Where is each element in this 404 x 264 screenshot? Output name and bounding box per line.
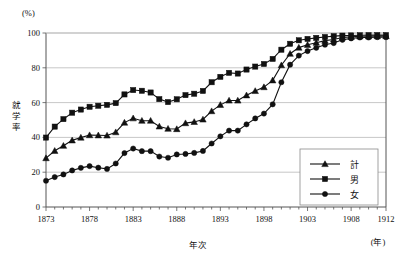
- y-tick-label-0: 0: [36, 202, 40, 212]
- data-point-計-1897: [252, 88, 259, 94]
- data-point-男-1905: [322, 34, 327, 39]
- data-point-男-1883: [131, 87, 136, 92]
- data-point-女-1909: [357, 35, 362, 40]
- data-point-女-1899: [270, 102, 275, 107]
- data-point-男-1878: [87, 104, 92, 109]
- x-tick-label-1878: 1878: [81, 214, 98, 224]
- legend: 計男女: [300, 149, 378, 205]
- y-tick-labels: 020406080100: [27, 28, 40, 212]
- x-tick-label-1888: 1888: [168, 214, 185, 224]
- data-point-女-1875: [61, 172, 66, 177]
- data-point-女-1895: [235, 128, 240, 133]
- y-tick-label-60: 60: [32, 98, 41, 108]
- data-point-男-1895: [235, 71, 240, 76]
- data-point-女-1884: [139, 149, 144, 154]
- data-point-女-1873: [43, 178, 48, 183]
- x-tick-label-1893: 1893: [212, 214, 229, 224]
- data-point-男-1881: [113, 101, 118, 106]
- data-point-男-1876: [70, 110, 75, 115]
- data-point-女-1907: [340, 37, 345, 42]
- data-point-男-1898: [261, 61, 266, 66]
- data-point-女-1904: [314, 45, 319, 50]
- data-point-男-1890: [192, 91, 197, 96]
- legend-box: [300, 149, 378, 205]
- y-tick-label-100: 100: [27, 28, 40, 38]
- data-point-女-1883: [131, 146, 136, 151]
- series-line-男: [46, 35, 386, 137]
- data-point-女-1876: [70, 168, 75, 173]
- data-point-女-1886: [157, 154, 162, 159]
- data-point-女-1906: [331, 40, 336, 45]
- data-point-計-1886: [156, 123, 163, 129]
- series-男: [43, 32, 388, 140]
- data-point-女-1891: [200, 148, 205, 153]
- data-point-女-1892: [209, 141, 214, 146]
- data-point-女-1897: [253, 116, 258, 121]
- data-point-女-1901: [288, 62, 293, 67]
- data-point-計-1874: [51, 148, 58, 154]
- data-point-女-1877: [78, 165, 83, 170]
- data-point-女-1881: [113, 161, 118, 166]
- x-axis-unit-label: (年): [371, 237, 386, 247]
- data-point-女-1894: [226, 128, 231, 133]
- data-point-計-1882: [121, 119, 128, 125]
- enrollment-rate-line-chart: 020406080100 187318781883188818931898190…: [0, 0, 404, 264]
- data-point-男-1896: [244, 67, 249, 72]
- data-point-男-1900: [279, 47, 284, 52]
- data-point-男-1901: [288, 41, 293, 46]
- y-axis-title-char: 就: [12, 100, 21, 110]
- data-point-女-1912: [383, 35, 388, 40]
- x-axis-title: 年次: [189, 240, 207, 250]
- data-point-女-1910: [366, 35, 371, 40]
- data-point-計-1892: [208, 108, 215, 114]
- data-point-男-1873: [43, 135, 48, 140]
- y-axis-unit-label: (%): [22, 8, 35, 18]
- legend-label-女: 女: [350, 189, 359, 200]
- x-tick-label-1912: 1912: [378, 214, 395, 224]
- data-point-男-1886: [157, 97, 162, 102]
- data-point-男-1877: [78, 107, 83, 112]
- data-point-男-1903: [305, 36, 310, 41]
- data-point-女-1874: [52, 174, 57, 179]
- x-tick-labels: 187318781883188818931898190319081912: [38, 214, 395, 224]
- data-point-女-1878: [87, 164, 92, 169]
- x-tick-label-1873: 1873: [38, 214, 55, 224]
- data-point-男-1884: [139, 88, 144, 93]
- data-point-男-1874: [52, 124, 57, 129]
- data-point-計-1901: [287, 50, 294, 56]
- data-point-女-1900: [279, 80, 284, 85]
- data-point-男-1892: [209, 80, 214, 85]
- y-tick-label-80: 80: [32, 63, 41, 73]
- data-point-女-1893: [218, 134, 223, 139]
- data-point-男-1887: [165, 99, 170, 104]
- data-point-男-1894: [226, 70, 231, 75]
- data-point-女-1908: [349, 36, 354, 41]
- legend-marker-女: [322, 191, 327, 196]
- x-tick-label-1903: 1903: [299, 214, 316, 224]
- data-point-男-1891: [200, 88, 205, 93]
- x-tick-label-1908: 1908: [343, 214, 360, 224]
- data-point-男-1888: [174, 97, 179, 102]
- data-point-計-1883: [130, 115, 137, 121]
- data-point-女-1885: [148, 149, 153, 154]
- data-point-男-1879: [96, 103, 101, 108]
- data-point-女-1905: [322, 42, 327, 47]
- y-tick-label-20: 20: [32, 167, 41, 177]
- data-point-女-1902: [296, 53, 301, 58]
- data-point-女-1887: [165, 155, 170, 160]
- data-point-男-1899: [270, 56, 275, 61]
- data-point-男-1889: [183, 93, 188, 98]
- data-point-男-1902: [296, 38, 301, 43]
- data-point-男-1875: [61, 117, 66, 122]
- legend-label-計: 計: [350, 159, 359, 170]
- data-point-男-1893: [218, 74, 223, 79]
- data-point-計-1875: [60, 143, 67, 149]
- data-point-女-1898: [261, 111, 266, 116]
- data-point-女-1890: [192, 150, 197, 155]
- y-tick-label-40: 40: [32, 132, 41, 142]
- x-tick-label-1883: 1883: [125, 214, 142, 224]
- data-point-女-1896: [244, 122, 249, 127]
- legend-marker-男: [322, 176, 327, 181]
- data-point-計-1899: [269, 77, 276, 83]
- data-point-女-1882: [122, 150, 127, 155]
